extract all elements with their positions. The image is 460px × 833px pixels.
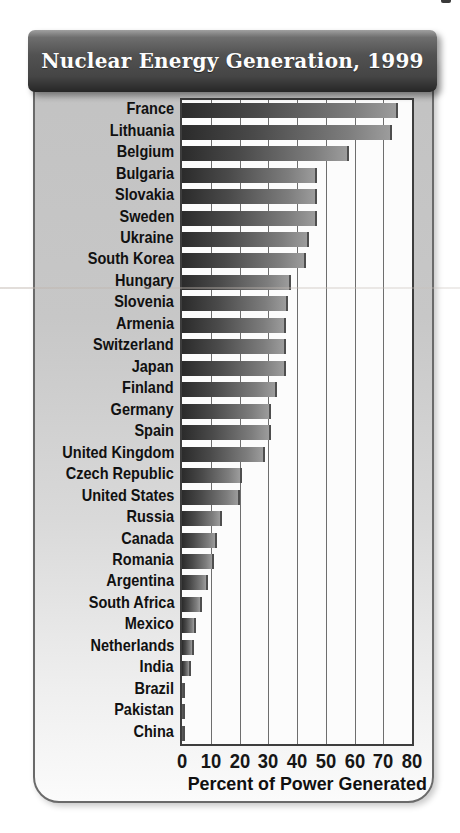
x-tick-30: 30 <box>258 750 278 773</box>
bar-row-bulgaria <box>182 164 412 185</box>
bar-bulgaria <box>182 168 317 183</box>
bar-south-africa <box>182 597 202 612</box>
bar-row-ukraine <box>182 229 412 250</box>
country-label-france: France <box>35 98 176 119</box>
x-axis-ticks: 01020304050607080 <box>35 750 432 774</box>
chart-title-bar: Nuclear Energy Generation, 1999 <box>28 30 437 92</box>
country-label-slovakia: Slovakia <box>35 184 176 205</box>
country-label-text: Finland <box>122 378 174 397</box>
bar-slovenia <box>182 296 288 311</box>
country-label-india: India <box>35 656 176 677</box>
country-label-united-states: United States <box>35 484 176 505</box>
country-label-text: United States <box>81 486 174 505</box>
bar-row-brazil <box>182 680 412 701</box>
country-label-text: China <box>134 722 174 741</box>
country-label-romania: Romania <box>35 549 176 570</box>
bar-row-hungary <box>182 272 412 293</box>
bar-row-canada <box>182 529 412 550</box>
bar-japan <box>182 361 286 376</box>
country-label-text: Netherlands <box>90 636 174 655</box>
bar-row-lithuania <box>182 121 412 142</box>
x-tick-0: 0 <box>177 750 187 773</box>
country-label-text: Japan <box>132 357 174 376</box>
bar-row-argentina <box>182 572 412 593</box>
bar-row-spain <box>182 422 412 443</box>
bar-row-india <box>182 658 412 679</box>
bar-france <box>182 103 398 118</box>
country-label-united-kingdom: United Kingdom <box>35 441 176 462</box>
country-label-text: Czech Republic <box>66 464 174 483</box>
x-axis-title: Percent of Power Generated <box>180 773 414 795</box>
country-label-text: Mexico <box>125 614 174 633</box>
bar-canada <box>182 533 217 548</box>
bar-united-kingdom <box>182 447 265 462</box>
page: Nuclear Energy Generation, 1999 FranceLi… <box>0 0 460 833</box>
country-label-text: Sweden <box>119 207 174 226</box>
country-label-text: South Korea <box>88 249 174 268</box>
country-label-bulgaria: Bulgaria <box>35 162 176 183</box>
country-label-belgium: Belgium <box>35 141 176 162</box>
country-label-south-korea: South Korea <box>35 248 176 269</box>
country-label-text: Lithuania <box>109 121 174 140</box>
country-label-text: Russia <box>126 507 174 526</box>
bar-row-netherlands <box>182 637 412 658</box>
bar-row-romania <box>182 551 412 572</box>
country-label-text: Germany <box>111 400 174 419</box>
bar-belgium <box>182 146 349 161</box>
bar-row-mexico <box>182 615 412 636</box>
bar-row-armenia <box>182 315 412 336</box>
country-label-text: Canada <box>122 529 174 548</box>
x-tick-70: 70 <box>373 750 393 773</box>
plot-area <box>180 98 414 746</box>
bar-row-united-kingdom <box>182 443 412 464</box>
country-label-text: Slovenia <box>114 292 174 311</box>
country-label-china: China <box>35 721 176 742</box>
country-label-germany: Germany <box>35 399 176 420</box>
x-tick-10: 10 <box>201 750 221 773</box>
country-label-text: Switzerland <box>93 335 174 354</box>
country-label-argentina: Argentina <box>35 570 176 591</box>
bar-lithuania <box>182 125 392 140</box>
bar-row-finland <box>182 379 412 400</box>
country-label-text: South Africa <box>88 593 174 612</box>
country-label-text: Argentina <box>106 571 174 590</box>
bar-row-united-states <box>182 486 412 507</box>
scan-artifact-mark <box>441 0 451 3</box>
bar-switzerland <box>182 339 286 354</box>
bar-row-belgium <box>182 143 412 164</box>
bar-row-sweden <box>182 207 412 228</box>
country-label-mexico: Mexico <box>35 613 176 634</box>
country-label-russia: Russia <box>35 506 176 527</box>
country-label-lithuania: Lithuania <box>35 119 176 140</box>
bar-argentina <box>182 575 208 590</box>
bar-south-korea <box>182 253 306 268</box>
x-axis-title-text: Percent of Power Generated <box>188 773 427 795</box>
bar-spain <box>182 425 271 440</box>
country-label-hungary: Hungary <box>35 270 176 291</box>
country-label-czech-republic: Czech Republic <box>35 463 176 484</box>
bar-armenia <box>182 318 286 333</box>
country-label-spain: Spain <box>35 420 176 441</box>
bar-row-japan <box>182 358 412 379</box>
bar-netherlands <box>182 640 194 655</box>
country-label-text: Ukraine <box>121 228 174 247</box>
country-label-text: Romania <box>113 550 174 569</box>
bar-romania <box>182 554 214 569</box>
bar-row-south-africa <box>182 594 412 615</box>
country-label-brazil: Brazil <box>35 678 176 699</box>
bar-sweden <box>182 211 317 226</box>
bar-finland <box>182 382 277 397</box>
bar-row-germany <box>182 401 412 422</box>
bar-row-slovakia <box>182 186 412 207</box>
country-label-text: Armenia <box>116 314 174 333</box>
country-label-armenia: Armenia <box>35 313 176 334</box>
bar-row-czech-republic <box>182 465 412 486</box>
bar-ukraine <box>182 232 309 247</box>
bar-row-south-korea <box>182 250 412 271</box>
country-label-text: Hungary <box>115 271 174 290</box>
x-tick-20: 20 <box>229 750 249 773</box>
bar-row-slovenia <box>182 293 412 314</box>
country-label-switzerland: Switzerland <box>35 334 176 355</box>
country-label-south-africa: South Africa <box>35 592 176 613</box>
bar-russia <box>182 511 222 526</box>
